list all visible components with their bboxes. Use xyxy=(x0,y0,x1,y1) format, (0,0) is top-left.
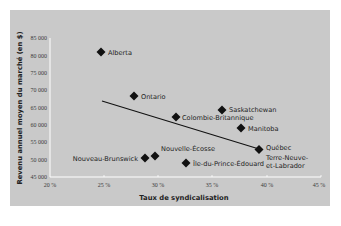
label-ontario: Ontario xyxy=(141,93,166,101)
y-tick: 75 000 xyxy=(31,70,48,76)
x-tick: 20 % xyxy=(44,182,57,188)
y-tick: 70 000 xyxy=(31,87,48,93)
scatter-chart: 45 000 50 000 55 000 60 000 65 000 70 00… xyxy=(0,0,341,226)
label-quebec: Québec xyxy=(266,144,292,152)
y-tick-labels: 45 000 50 000 55 000 60 000 65 000 70 00… xyxy=(31,35,48,180)
x-tick: 25 % xyxy=(98,182,111,188)
label-ile-du-prince-edouard: Île-du-Prince-Édouard xyxy=(193,159,264,168)
x-tick: 40 % xyxy=(261,182,274,188)
y-tick: 45 000 xyxy=(31,174,48,180)
marker-ile-du-prince-edouard xyxy=(182,159,191,168)
x-tick-labels: 20 % 25 % 30 % 35 % 40 % 45 % xyxy=(44,182,326,188)
label-alberta: Alberta xyxy=(108,49,132,57)
x-axis-title: Taux de syndicalisation xyxy=(139,194,228,202)
marker-ontario xyxy=(130,92,139,101)
y-tick: 65 000 xyxy=(31,105,48,111)
marker-quebec xyxy=(255,145,264,154)
label-colombie-britannique: Colombie-Britannique xyxy=(182,114,253,122)
y-tick: 50 000 xyxy=(31,157,48,163)
marker-nouveau-brunswick xyxy=(141,154,150,163)
x-tick: 45 % xyxy=(313,182,326,188)
y-tick: 60 000 xyxy=(31,122,48,128)
label-saskatchewan: Saskatchewan xyxy=(229,106,276,114)
label-terre-neuve-1: Terre-Neuve- xyxy=(265,154,309,162)
label-terre-neuve-2: et-Labrador xyxy=(266,162,305,170)
x-tick: 30 % xyxy=(152,182,165,188)
label-manitoba: Manitoba xyxy=(248,125,279,133)
y-axis-title: Revenu annuel moyen du marché (en $) xyxy=(16,31,24,184)
marker-nouvelle-ecosse xyxy=(151,152,160,161)
label-nouveau-brunswick: Nouveau-Brunswick xyxy=(73,155,138,163)
marker-manitoba xyxy=(237,124,246,133)
x-tick: 35 % xyxy=(206,182,219,188)
marker-alberta xyxy=(97,48,106,57)
y-tick: 55 000 xyxy=(31,139,48,145)
y-tick: 85 000 xyxy=(31,35,48,41)
point-labels: Alberta Ontario Colombie-Britannique Sas… xyxy=(73,49,309,170)
label-nouvelle-ecosse: Nouvelle-Écosse xyxy=(161,144,215,153)
marker-colombie-britannique xyxy=(172,113,181,122)
y-tick: 80 000 xyxy=(31,53,48,59)
